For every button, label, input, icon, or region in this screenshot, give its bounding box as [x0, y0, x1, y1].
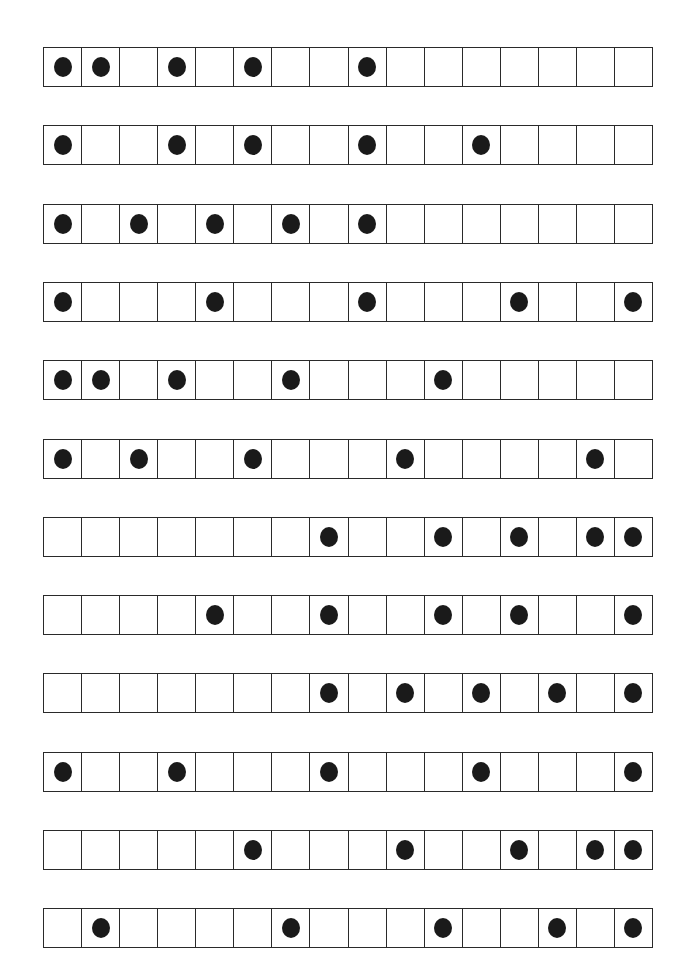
strip-cell [234, 831, 272, 869]
strip-cell [310, 205, 348, 243]
filled-dot-icon [244, 449, 262, 469]
strip-cell [577, 205, 615, 243]
strip-cell [615, 283, 652, 321]
filled-dot-icon [320, 527, 338, 547]
strip-cell [501, 440, 539, 478]
strip-cell [463, 48, 501, 86]
strip-cell [425, 753, 463, 791]
strip-cell [349, 283, 387, 321]
strip-cell [234, 48, 272, 86]
strip-cell [310, 753, 348, 791]
strip-cell [310, 126, 348, 164]
strip-cell [82, 205, 120, 243]
strip-cell [310, 831, 348, 869]
strip-cell [349, 753, 387, 791]
dot-strip-row [43, 752, 653, 792]
strip-cell [82, 361, 120, 399]
strip-cell [577, 126, 615, 164]
strip-cell [387, 909, 425, 947]
strip-cell [158, 440, 196, 478]
strip-cell [196, 596, 234, 634]
strip-cell [615, 361, 652, 399]
filled-dot-icon [624, 918, 642, 938]
strip-cell [234, 440, 272, 478]
strip-cell [539, 753, 577, 791]
strip-cell [615, 440, 652, 478]
filled-dot-icon [92, 57, 110, 77]
dot-strip-row [43, 517, 653, 557]
strip-cell [196, 48, 234, 86]
strip-cell [577, 518, 615, 556]
strip-cell [387, 674, 425, 712]
filled-dot-icon [434, 605, 452, 625]
filled-dot-icon [282, 918, 300, 938]
strip-cell [82, 440, 120, 478]
strip-cell [272, 205, 310, 243]
dot-strip-row [43, 908, 653, 948]
strip-cell [615, 205, 652, 243]
strip-cell [272, 48, 310, 86]
strip-cell [577, 48, 615, 86]
strip-cell [272, 440, 310, 478]
strip-cell [387, 126, 425, 164]
strip-cell [158, 126, 196, 164]
dot-strip-row [43, 282, 653, 322]
filled-dot-icon [168, 57, 186, 77]
strip-cell [387, 48, 425, 86]
filled-dot-icon [206, 605, 224, 625]
filled-dot-icon [130, 449, 148, 469]
strip-cell [349, 596, 387, 634]
filled-dot-icon [586, 840, 604, 860]
dot-strip-row [43, 204, 653, 244]
strip-cell [234, 909, 272, 947]
strip-cell [501, 205, 539, 243]
strip-cell [196, 205, 234, 243]
strip-cell [44, 205, 82, 243]
strip-cell [501, 283, 539, 321]
filled-dot-icon [244, 135, 262, 155]
strip-cell [310, 909, 348, 947]
strip-cell [44, 753, 82, 791]
strip-cell [310, 361, 348, 399]
filled-dot-icon [358, 57, 376, 77]
strip-cell [425, 596, 463, 634]
strip-cell [44, 361, 82, 399]
filled-dot-icon [244, 840, 262, 860]
strip-cell [158, 753, 196, 791]
filled-dot-icon [54, 214, 72, 234]
filled-dot-icon [358, 292, 376, 312]
strip-cell [425, 909, 463, 947]
strip-cell [120, 126, 158, 164]
strip-cell [425, 126, 463, 164]
strip-cell [272, 674, 310, 712]
filled-dot-icon [320, 762, 338, 782]
strip-cell [387, 596, 425, 634]
filled-dot-icon [472, 135, 490, 155]
strip-cell [577, 753, 615, 791]
strip-cell [158, 518, 196, 556]
strip-cell [463, 440, 501, 478]
strip-cell [539, 440, 577, 478]
strip-cell [349, 205, 387, 243]
strip-cell [539, 205, 577, 243]
filled-dot-icon [206, 292, 224, 312]
strip-cell [425, 518, 463, 556]
strip-cell [463, 283, 501, 321]
strip-cell [120, 48, 158, 86]
strip-cell [577, 361, 615, 399]
strip-cell [82, 831, 120, 869]
strip-cell [615, 831, 652, 869]
filled-dot-icon [472, 683, 490, 703]
strip-cell [615, 596, 652, 634]
strip-cell [82, 126, 120, 164]
strip-cell [272, 909, 310, 947]
strip-cell [44, 909, 82, 947]
strip-cell [120, 674, 158, 712]
filled-dot-icon [168, 762, 186, 782]
dot-strip-row [43, 360, 653, 400]
strip-cell [120, 361, 158, 399]
filled-dot-icon [358, 135, 376, 155]
filled-dot-icon [510, 605, 528, 625]
strip-cell [120, 518, 158, 556]
strip-cell [120, 440, 158, 478]
